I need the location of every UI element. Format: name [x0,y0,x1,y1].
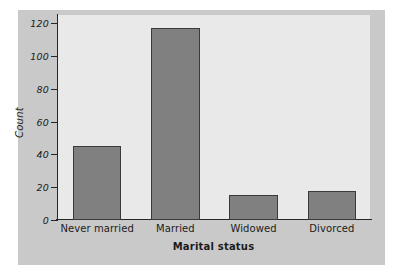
y-tick-label: 0 [43,215,49,226]
bar-never-married[interactable] [73,146,122,220]
x-axis-title: Marital status [57,241,370,252]
bar-married[interactable] [151,28,200,220]
y-tick-mark [51,23,58,24]
y-tick-mark [51,122,58,123]
y-tick-mark [51,56,58,57]
x-tick-label-married: Married [136,223,214,234]
y-tick-label: 60 [37,116,50,127]
x-tick-label-widowed: Widowed [215,223,293,234]
y-tick-mark [51,187,58,188]
bars-layer [58,15,371,220]
bar-widowed[interactable] [229,195,278,220]
bar-divorced[interactable] [308,191,357,220]
x-tick-label-never-married: Never married [58,223,136,234]
y-tick-label: 20 [37,182,50,193]
x-tick-label-divorced: Divorced [293,223,371,234]
y-tick-mark [51,89,58,90]
chart-figure: 020406080100120 Count Never marriedMarri… [18,10,385,265]
y-tick-label: 120 [30,18,49,29]
y-tick-label: 100 [30,51,49,62]
y-tick-label: 40 [37,149,50,160]
y-tick-mark [51,220,58,221]
y-tick-label: 80 [37,83,50,94]
y-tick-mark [51,154,58,155]
y-axis-title: Count [14,107,25,138]
